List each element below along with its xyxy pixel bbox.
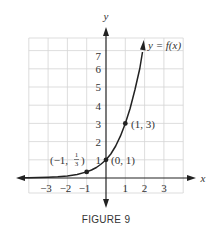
point-neg1-third: [84, 170, 89, 175]
y-tick-4: 4: [96, 100, 102, 112]
point-0-1: [104, 157, 109, 162]
y-tick-7: 7: [96, 50, 102, 62]
figure-graph: y x −3 −2 −1 1 2 3 1 2 3 4 5 6 7 y = f(x…: [0, 0, 220, 228]
y-tick-2: 2: [96, 136, 102, 148]
point-label-neg1-open: (−1,: [50, 154, 68, 167]
curve-label: y = f(x): [147, 39, 181, 52]
x-axis-right-arrow-icon: [187, 175, 196, 181]
point-1-3: [123, 121, 128, 126]
x-axis-label: x: [200, 172, 206, 184]
point-label-1-3: (1, 3): [131, 118, 155, 131]
y-axis-up-arrow-icon: [103, 27, 109, 36]
point-label-neg1-den: 3: [75, 160, 79, 168]
point-label-neg1-close: ): [81, 154, 85, 167]
y-axis: [103, 27, 109, 208]
x-tick-neg1: −1: [79, 182, 91, 194]
y-axis-label: y: [103, 10, 109, 22]
y-tick-labels: 1 2 3 4 5 6 7: [96, 50, 102, 166]
y-axis-down-arrow-icon: [103, 199, 109, 208]
x-tick-3: 3: [161, 182, 167, 194]
x-tick-1: 1: [123, 182, 129, 194]
x-tick-neg2: −2: [60, 182, 72, 194]
point-label-0-1: (0, 1): [111, 154, 135, 167]
x-tick-labels: −3 −2 −1 1 2 3: [40, 182, 167, 194]
point-labels: (1, 3) (0, 1) (−1, 1 3 ): [50, 118, 155, 169]
x-tick-2: 2: [142, 182, 148, 194]
y-tick-5: 5: [96, 81, 102, 93]
y-tick-3: 3: [96, 118, 102, 130]
y-tick-6: 6: [96, 63, 102, 75]
figure-caption: FIGURE 9: [82, 214, 131, 225]
x-tick-neg3: −3: [40, 182, 52, 194]
y-tick-1: 1: [96, 154, 102, 166]
point-label-neg1-num: 1: [75, 151, 79, 159]
